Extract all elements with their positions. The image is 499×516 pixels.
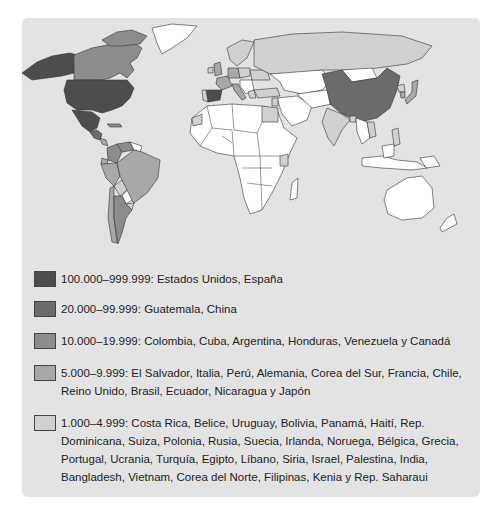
region-spain xyxy=(206,90,222,102)
region-levant xyxy=(272,98,278,106)
legend-item-100k: 100.000–999.999: Estados Unidos, España xyxy=(34,270,471,288)
region-western-sahara xyxy=(192,114,202,126)
legend-item-20k: 20.000–99.999: Guatemala, China xyxy=(34,300,471,318)
region-canada-islands xyxy=(102,30,147,46)
region-greenland xyxy=(152,24,197,54)
region-argentina xyxy=(114,196,132,244)
legend-swatch-5k xyxy=(34,365,56,381)
region-alaska xyxy=(22,53,77,80)
region-madagascar xyxy=(290,178,298,200)
region-peru xyxy=(101,163,120,186)
legend-label-10k: 10.000–19.999: Colombia, Cuba, Argentina… xyxy=(61,332,471,350)
region-borneo xyxy=(382,144,394,158)
region-turkey xyxy=(254,88,280,98)
legend-swatch-20k xyxy=(34,301,56,317)
region-kenya xyxy=(280,154,288,166)
legend-label-20k: 20.000–99.999: Guatemala, China xyxy=(61,300,471,318)
legend-label-1k: 1.000–4.999: Costa Rica, Belice, Uruguay… xyxy=(61,414,471,486)
legend-swatch-100k xyxy=(34,271,56,287)
world-map xyxy=(22,18,480,248)
legend-label-5k: 5.000–9.999: El Salvador, Italia, Perú, … xyxy=(61,364,471,400)
region-scandinavia xyxy=(227,40,254,66)
region-egypt xyxy=(262,106,278,122)
region-mexico xyxy=(72,110,100,132)
region-indonesia xyxy=(362,156,427,170)
legend-item-1k: 1.000–4.999: Costa Rica, Belice, Uruguay… xyxy=(34,414,471,486)
map-panel: 100.000–999.999: Estados Unidos, España … xyxy=(22,18,480,497)
region-uk xyxy=(214,62,222,76)
region-australia xyxy=(384,176,434,220)
region-canada xyxy=(74,42,142,80)
region-cuba xyxy=(107,124,122,127)
legend-item-5k: 5.000–9.999: El Salvador, Italia, Perú, … xyxy=(34,364,471,400)
region-russia xyxy=(254,32,432,74)
region-ireland xyxy=(208,67,213,73)
region-south-korea xyxy=(400,92,405,98)
legend-swatch-1k xyxy=(34,415,56,431)
region-philippines xyxy=(392,128,400,146)
region-poland xyxy=(238,68,250,78)
region-new-zealand xyxy=(440,214,457,232)
region-japan xyxy=(405,80,418,104)
region-central-america-2 xyxy=(100,138,108,146)
legend-label-100k: 100.000–999.999: Estados Unidos, España xyxy=(61,270,471,288)
legend-swatch-10k xyxy=(34,333,56,349)
legend-item-10k: 10.000–19.999: Colombia, Cuba, Argentina… xyxy=(34,332,471,350)
region-usa xyxy=(64,80,134,113)
region-bangladesh xyxy=(350,116,356,122)
